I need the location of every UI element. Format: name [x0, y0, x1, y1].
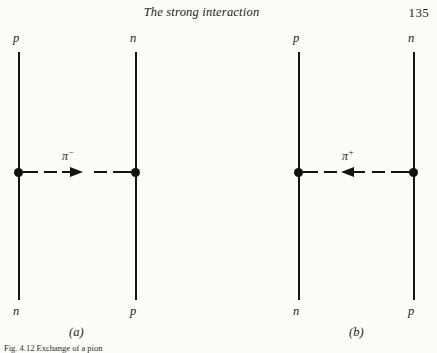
- label-b-right-bottom: p: [408, 304, 414, 319]
- label-a-right-bottom: p: [130, 304, 136, 319]
- boson-arrow-a-right: [70, 167, 83, 177]
- panel-label-b: (b): [349, 325, 364, 340]
- meson-symbol-b: π: [342, 149, 348, 163]
- label-b-left-top: p: [293, 31, 299, 46]
- meson-charge-a: −: [69, 147, 74, 157]
- label-a-right-top: n: [130, 31, 136, 46]
- label-b-right-top: n: [408, 31, 414, 46]
- meson-charge-b: +: [349, 147, 354, 157]
- label-a-left-top: p: [13, 31, 19, 46]
- figure-caption: Fig. 4.12 Exchange of a pion: [4, 343, 434, 353]
- meson-label-a: π−: [62, 147, 74, 164]
- meson-label-b: π+: [342, 147, 354, 164]
- panel-label-a: (a): [69, 325, 84, 340]
- boson-arrow-b-left: [341, 167, 354, 177]
- label-a-left-bottom: n: [13, 304, 19, 319]
- meson-symbol-a: π: [62, 149, 68, 163]
- label-b-left-bottom: n: [293, 304, 299, 319]
